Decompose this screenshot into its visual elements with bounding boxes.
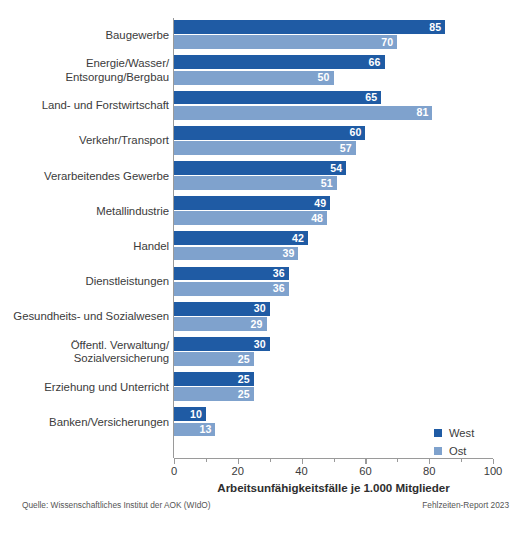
bar-value-label: 57 (340, 143, 356, 154)
bars-container: 6057 (174, 124, 531, 159)
bar-ost[interactable]: 57 (174, 141, 356, 155)
bar-value-label: 70 (381, 37, 397, 48)
category-label-line: Sozialversicherung (74, 352, 169, 365)
category-label: Öffentl. Verwaltung/Sozialversicherung (0, 335, 169, 370)
category-label-line: Dienstleistungen (86, 275, 169, 288)
bars-container: 4239 (174, 229, 531, 264)
bar-west[interactable]: 54 (174, 161, 346, 175)
bar-ost[interactable]: 36 (174, 282, 289, 296)
bar-west[interactable]: 65 (174, 91, 381, 105)
x-tick-major (302, 459, 303, 464)
bar-west[interactable]: 30 (174, 302, 270, 316)
bar-group: Baugewerbe8570 (0, 18, 531, 53)
bar-value-label: 25 (238, 389, 254, 400)
x-tick-major (429, 459, 430, 464)
bar-group: Öffentl. Verwaltung/Sozialversicherung30… (0, 335, 531, 370)
legend-label-ost: Ost (449, 445, 466, 457)
bar-value-label: 51 (321, 178, 337, 189)
chart-legend: West Ost (434, 425, 474, 461)
bar-value-label: 66 (369, 57, 385, 68)
x-tick-major (493, 459, 494, 464)
category-label-line: Verkehr/Transport (79, 134, 169, 147)
category-label-line: Entsorgung/Bergbau (65, 71, 169, 84)
bar-west[interactable]: 42 (174, 231, 308, 245)
bar-west[interactable]: 60 (174, 126, 365, 140)
category-label: Baugewerbe (0, 18, 169, 53)
x-tick-label: 0 (171, 465, 177, 477)
legend-item-ost[interactable]: Ost (434, 443, 474, 459)
bar-ost[interactable]: 13 (174, 423, 215, 437)
category-label: Metallindustrie (0, 194, 169, 229)
bar-group: Gesundheits- und Sozialwesen3029 (0, 300, 531, 335)
x-tick-major (365, 459, 366, 464)
bar-value-label: 30 (254, 339, 270, 350)
bar-west[interactable]: 85 (174, 20, 445, 34)
bar-value-label: 36 (273, 283, 289, 294)
bars-container: 3025 (174, 335, 531, 370)
category-label: Land- und Forstwirtschaft (0, 88, 169, 123)
bar-ost[interactable]: 48 (174, 211, 327, 225)
category-label-line: Energie/Wasser/ (86, 57, 169, 70)
bars-container: 8570 (174, 18, 531, 53)
x-tick-minor (397, 459, 398, 462)
x-tick-label: 80 (423, 465, 435, 477)
category-label: Verarbeitendes Gewerbe (0, 159, 169, 194)
bar-value-label: 25 (238, 374, 254, 385)
x-tick-minor (334, 459, 335, 462)
legend-swatch-ost-icon (434, 447, 442, 455)
category-label-line: Verarbeitendes Gewerbe (44, 170, 169, 183)
category-label: Banken/Versicherungen (0, 405, 169, 440)
bar-ost[interactable]: 39 (174, 247, 298, 261)
bars-container: 1013 (174, 405, 531, 440)
bar-west[interactable]: 36 (174, 267, 289, 281)
bar-ost[interactable]: 25 (174, 387, 254, 401)
bars-container: 4948 (174, 194, 531, 229)
category-label-line: Erziehung und Unterricht (44, 381, 169, 394)
bars-container: 2525 (174, 370, 531, 405)
bar-value-label: 29 (251, 319, 267, 330)
bar-west[interactable]: 10 (174, 407, 206, 421)
bar-ost[interactable]: 50 (174, 71, 334, 85)
category-label: Dienstleistungen (0, 264, 169, 299)
legend-swatch-west-icon (434, 429, 442, 437)
bar-value-label: 39 (282, 248, 298, 259)
bar-west[interactable]: 25 (174, 372, 254, 386)
category-label-line: Baugewerbe (106, 29, 169, 42)
report-note: Fehlzeiten-Report 2023 (422, 500, 509, 510)
bar-value-label: 10 (190, 409, 206, 420)
bars-container: 6581 (174, 88, 531, 123)
chart-figure: Baugewerbe8570Energie/Wasser/Entsorgung/… (0, 0, 531, 535)
category-label: Handel (0, 229, 169, 264)
bar-west[interactable]: 30 (174, 337, 270, 351)
category-label-line: Gesundheits- und Sozialwesen (13, 310, 169, 323)
bars-container: 6650 (174, 53, 531, 88)
bar-value-label: 30 (254, 303, 270, 314)
bar-group: Erziehung und Unterricht2525 (0, 370, 531, 405)
bar-ost[interactable]: 81 (174, 106, 432, 120)
bar-group: Energie/Wasser/Entsorgung/Bergbau6650 (0, 53, 531, 88)
bar-value-label: 50 (318, 72, 334, 83)
bar-ost[interactable]: 29 (174, 317, 267, 331)
x-tick-minor (270, 459, 271, 462)
bar-ost[interactable]: 25 (174, 352, 254, 366)
bars-container: 5451 (174, 159, 531, 194)
source-note: Quelle: Wissenschaftliches Institut der … (22, 500, 211, 510)
bar-ost[interactable]: 51 (174, 176, 337, 190)
bar-value-label: 54 (330, 163, 346, 174)
bar-group: Dienstleistungen3636 (0, 264, 531, 299)
bar-value-label: 65 (365, 92, 381, 103)
x-tick-label: 20 (232, 465, 244, 477)
category-label: Gesundheits- und Sozialwesen (0, 300, 169, 335)
category-label-line: Öffentl. Verwaltung/ (71, 339, 169, 352)
bars-container: 3029 (174, 300, 531, 335)
bar-group: Verarbeitendes Gewerbe5451 (0, 159, 531, 194)
x-tick-major (174, 459, 175, 464)
bar-west[interactable]: 49 (174, 196, 330, 210)
bar-value-label: 48 (311, 213, 327, 224)
bar-ost[interactable]: 70 (174, 35, 397, 49)
legend-item-west[interactable]: West (434, 425, 474, 441)
bar-west[interactable]: 66 (174, 55, 385, 69)
bar-value-label: 36 (273, 268, 289, 279)
category-label-line: Land- und Forstwirtschaft (42, 99, 169, 112)
bar-value-label: 13 (199, 424, 215, 435)
